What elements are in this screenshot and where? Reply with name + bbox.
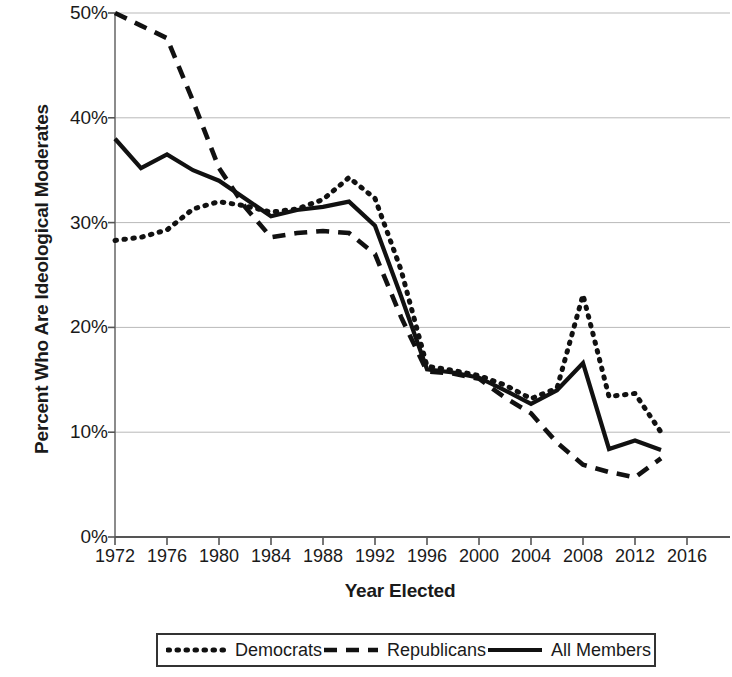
legend-entry-republicans[interactable]: Republicans (322, 640, 486, 661)
plot-svg (115, 13, 730, 537)
chart-legend: DemocratsRepublicansAll Members (156, 633, 656, 667)
x-axis-title: Year Elected (110, 580, 690, 602)
y-tick-label: 0% (38, 526, 108, 548)
y-tick-label: 20% (38, 316, 108, 338)
x-axis-tick-labels: 1972197619801984198819921996200020042008… (0, 546, 732, 576)
y-tick-label: 10% (38, 421, 108, 443)
x-tick-label: 2016 (652, 546, 722, 567)
dashed-line-swatch (322, 644, 380, 656)
series-line-democrats (115, 178, 661, 433)
legend-label: All Members (551, 640, 651, 661)
y-tick-label: 50% (38, 2, 108, 24)
series-line-republicans (115, 13, 661, 477)
dotted-line-swatch (166, 644, 228, 656)
plot-area (115, 13, 730, 537)
legend-label: Democrats (235, 640, 322, 661)
legend-label: Republicans (387, 640, 486, 661)
solid-line-swatch (486, 644, 544, 656)
chart-figure: Percent Who Are Ideological Moderates 0%… (0, 0, 732, 677)
series-line-all-members (115, 139, 661, 450)
legend-entry-democrats[interactable]: Democrats (166, 640, 322, 661)
y-tick-label: 40% (38, 107, 108, 129)
y-tick-label: 30% (38, 212, 108, 234)
legend-entry-all-members[interactable]: All Members (486, 640, 651, 661)
